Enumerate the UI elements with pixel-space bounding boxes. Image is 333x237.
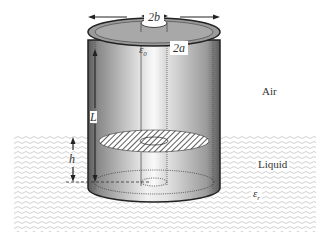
inner-diameter-label: 2a (170, 41, 188, 55)
permittivity-air-label: ε0 (139, 44, 147, 58)
coaxial-cylinder-figure (0, 0, 333, 237)
air-region-label: Air (262, 86, 277, 97)
outer-diameter-label: 2b (144, 11, 164, 23)
length-label: L (90, 111, 97, 123)
liquid-surface-disk (99, 130, 209, 152)
permittivity-liquid-label: εr (251, 188, 262, 202)
diagram-canvas: 2b 2a ε0 L h Air Liquid εr (0, 0, 333, 237)
liquid-region-label: Liquid (256, 159, 289, 170)
height-label: h (69, 153, 75, 165)
